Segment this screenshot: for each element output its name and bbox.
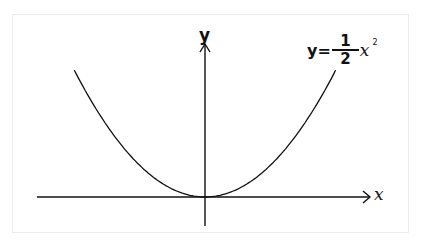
fraction-denominator: 2: [340, 51, 350, 68]
equation-exponent: 2: [372, 38, 377, 47]
equation-variable: x: [360, 40, 370, 60]
y-axis-label: y: [199, 27, 210, 44]
y-axis: [200, 44, 210, 226]
fraction: 1 2: [332, 33, 359, 68]
x-axis-label: x: [374, 186, 384, 203]
fraction-numerator: 1: [340, 33, 350, 49]
equation-label: y= 1 2 x 2: [307, 30, 378, 70]
equation-lhs: y=: [307, 41, 331, 60]
